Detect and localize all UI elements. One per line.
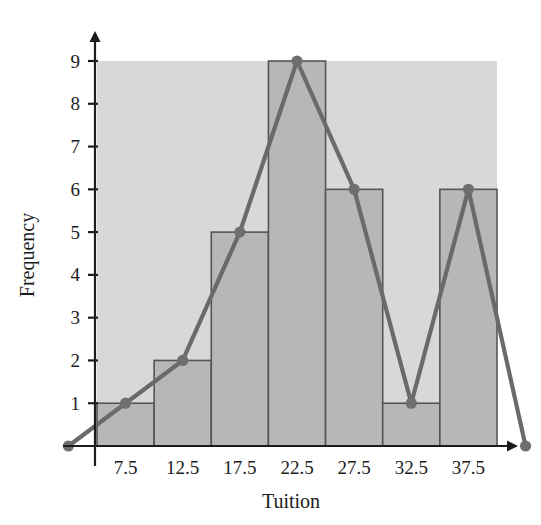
data-point-marker xyxy=(234,227,245,238)
histogram-bar xyxy=(383,403,440,446)
y-axis-tick-label: 4 xyxy=(71,264,81,285)
data-point-marker xyxy=(463,184,474,195)
data-point-marker xyxy=(120,398,131,409)
x-axis-title: Tuition xyxy=(262,490,320,512)
x-axis-tick-label: 17.5 xyxy=(223,457,256,478)
y-axis-tick-label: 8 xyxy=(71,93,81,114)
histogram-bar xyxy=(326,189,383,446)
data-point-marker xyxy=(520,440,531,451)
y-axis-title: Frequency xyxy=(16,213,39,297)
histogram-figure: 123456789 7.512.517.522.527.532.537.5 Tu… xyxy=(0,0,541,525)
y-axis-tick-label: 5 xyxy=(71,222,81,243)
chart-canvas: 123456789 7.512.517.522.527.532.537.5 Tu… xyxy=(0,0,541,525)
x-axis-tick-label: 12.5 xyxy=(166,457,199,478)
y-axis-arrow-icon xyxy=(90,31,101,42)
y-axis-tick-labels: 123456789 xyxy=(71,51,81,414)
y-axis-tick-label: 3 xyxy=(71,307,81,328)
histogram-bar xyxy=(97,403,154,446)
y-axis-tick-label: 2 xyxy=(71,350,81,371)
histogram-bar xyxy=(211,232,268,446)
data-point-marker xyxy=(291,55,302,66)
x-axis-tick-label: 22.5 xyxy=(280,457,313,478)
x-axis-tick-label: 7.5 xyxy=(114,457,138,478)
data-point-marker xyxy=(177,355,188,366)
data-point-marker xyxy=(349,184,360,195)
x-axis-arrow-icon xyxy=(507,441,518,452)
x-axis-tick-label: 37.5 xyxy=(452,457,485,478)
y-axis-tick-label: 6 xyxy=(71,179,81,200)
data-point-marker xyxy=(406,398,417,409)
x-axis-tick-labels: 7.512.517.522.527.532.537.5 xyxy=(114,457,485,478)
histogram-bar xyxy=(440,189,497,446)
x-axis-tick-label: 32.5 xyxy=(395,457,428,478)
y-axis-tick-label: 7 xyxy=(71,136,81,157)
y-axis-ticks xyxy=(88,61,98,403)
y-axis-tick-label: 1 xyxy=(71,393,81,414)
x-axis-tick-label: 27.5 xyxy=(338,457,371,478)
y-axis-tick-label: 9 xyxy=(71,51,81,72)
